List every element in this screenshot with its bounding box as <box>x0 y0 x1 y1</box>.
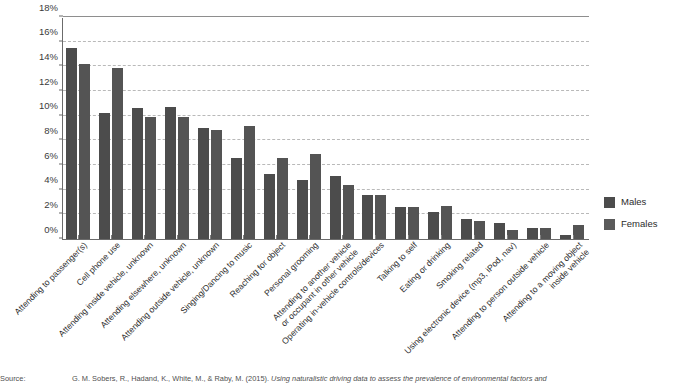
bar-females[interactable] <box>310 154 321 239</box>
y-axis-tick-label: 12% <box>6 77 58 87</box>
x-axis-tick-mark <box>111 235 112 239</box>
bar-females[interactable] <box>277 158 288 239</box>
y-axis-tick-label: 14% <box>6 52 58 62</box>
bar-males[interactable] <box>66 48 77 239</box>
y-axis-tick-label: 8% <box>6 126 58 136</box>
y-axis-tick-label: 6% <box>6 151 58 161</box>
x-axis-category-labels: Attending to passenger(s)Cell phone useA… <box>62 240 589 365</box>
bar-females[interactable] <box>408 207 419 239</box>
bar-females[interactable] <box>211 130 222 239</box>
bar-group <box>461 18 494 239</box>
bar-males[interactable] <box>264 174 275 239</box>
legend-item[interactable]: Males <box>604 191 684 213</box>
y-axis-tick-label: 2% <box>6 200 58 210</box>
bar-males[interactable] <box>99 113 110 239</box>
bar-group <box>527 18 560 239</box>
bar-females[interactable] <box>79 64 90 239</box>
bar-group <box>231 18 264 239</box>
y-axis-tick-label: 18% <box>6 3 58 13</box>
bar-males[interactable] <box>297 180 308 239</box>
chart-legend: MalesFemales <box>604 191 684 235</box>
legend-swatch-icon <box>604 219 615 230</box>
x-axis-label-line: inside vehicle <box>507 247 591 331</box>
bar-males[interactable] <box>428 212 439 239</box>
bar-group <box>494 18 527 239</box>
bar-females[interactable] <box>507 230 518 239</box>
bar-females[interactable] <box>112 68 123 239</box>
caption-source-label: Source: <box>0 374 28 384</box>
bar-group <box>428 18 461 239</box>
bar-males[interactable] <box>527 228 538 239</box>
x-axis-tick-mark <box>78 235 79 239</box>
bar-group <box>297 18 330 239</box>
bar-females[interactable] <box>474 221 485 240</box>
bar-males[interactable] <box>330 176 341 239</box>
x-axis-tick-mark <box>540 235 541 239</box>
bar-males[interactable] <box>461 219 472 239</box>
bar-group <box>99 18 132 239</box>
x-axis-label-line: or occupant in other vehicle <box>278 247 361 330</box>
bar-group <box>66 18 99 239</box>
bar-females[interactable] <box>178 117 189 239</box>
bar-females[interactable] <box>145 117 156 239</box>
bar-females[interactable] <box>244 126 255 239</box>
y-axis-tick-label: 0% <box>6 225 58 235</box>
bar-males[interactable] <box>132 108 143 239</box>
plot-area: 0%2%4%6%8%10%12%14%16%18% <box>62 18 589 240</box>
bar-females[interactable] <box>573 225 584 239</box>
bar-group <box>560 18 593 239</box>
bar-series-container <box>63 18 589 239</box>
x-axis-tick-mark <box>144 235 145 239</box>
x-axis-tick-mark <box>474 235 475 239</box>
x-axis-category-label: Attending to a moving objectinside vehic… <box>500 240 592 332</box>
bar-males[interactable] <box>395 207 406 239</box>
x-axis-tick-mark <box>210 235 211 239</box>
y-axis-tick-mark <box>59 16 63 17</box>
bar-males[interactable] <box>198 128 209 239</box>
bar-group <box>395 18 428 239</box>
x-axis-tick-mark <box>573 235 574 239</box>
x-axis-tick-mark <box>408 235 409 239</box>
x-axis-tick-mark <box>177 235 178 239</box>
legend-label: Females <box>621 219 657 229</box>
x-axis-tick-mark <box>276 235 277 239</box>
y-axis-tick-label: 16% <box>6 27 58 37</box>
x-axis-tick-mark <box>309 235 310 239</box>
legend-item[interactable]: Females <box>604 213 684 235</box>
y-axis-tick-label: 10% <box>6 101 58 111</box>
bar-males[interactable] <box>362 195 373 239</box>
gridline-18 <box>63 16 589 17</box>
x-axis-tick-mark <box>507 235 508 239</box>
bar-females[interactable] <box>343 185 354 239</box>
bar-males[interactable] <box>560 235 571 239</box>
bar-group <box>165 18 198 239</box>
bar-chart-figure: 0%2%4%6%8%10%12%14%16%18% Attending to p… <box>0 0 685 390</box>
x-axis-tick-mark <box>375 235 376 239</box>
x-axis-tick-mark <box>441 235 442 239</box>
legend-label: Males <box>621 197 646 207</box>
bar-group <box>264 18 297 239</box>
bar-males[interactable] <box>231 158 242 239</box>
bar-males[interactable] <box>494 223 505 239</box>
bar-group <box>362 18 395 239</box>
bar-group <box>330 18 363 239</box>
x-axis-tick-mark <box>342 235 343 239</box>
bar-females[interactable] <box>540 228 551 239</box>
x-axis-tick-mark <box>243 235 244 239</box>
bar-females[interactable] <box>441 206 452 239</box>
caption-authors: G. M. Sobers, R., Hadand, K., White, M.,… <box>72 374 269 383</box>
legend-swatch-icon <box>604 197 615 208</box>
bar-females[interactable] <box>375 195 386 239</box>
bar-group <box>132 18 165 239</box>
bar-group <box>198 18 231 239</box>
y-axis-tick-label: 4% <box>6 175 58 185</box>
bar-males[interactable] <box>165 107 176 239</box>
caption-title: Using naturalistic driving data to asses… <box>271 374 547 383</box>
figure-source-caption: Source:G. M. Sobers, R., Hadand, K., Whi… <box>0 374 685 384</box>
